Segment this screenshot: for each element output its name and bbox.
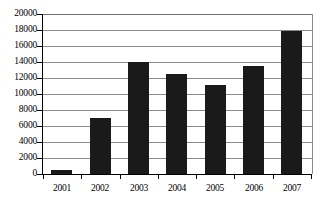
bar-2004 — [166, 74, 187, 174]
bar-2007 — [281, 31, 302, 174]
bar-2006 — [243, 66, 264, 174]
y-tick-mark — [37, 110, 42, 111]
y-tick-label: 0 — [0, 169, 37, 179]
y-tick-mark — [37, 126, 42, 127]
y-tick-mark — [37, 142, 42, 143]
x-tick-mark — [234, 175, 235, 179]
x-tick-label-2005: 2005 — [196, 183, 234, 193]
y-tick-label: 14000 — [0, 57, 37, 67]
x-tick-label-2002: 2002 — [81, 183, 119, 193]
x-tick-label-2003: 2003 — [120, 183, 158, 193]
bar-chart: 2000018000160001400012000100008000600040… — [0, 0, 328, 211]
y-tick-label: 10000 — [0, 89, 37, 99]
bar-2003 — [128, 62, 149, 174]
x-tick-label-2007: 2007 — [273, 183, 311, 193]
y-tick-mark — [37, 46, 42, 47]
y-tick-mark — [37, 30, 42, 31]
y-tick-mark — [37, 14, 42, 15]
x-tick-label-2001: 2001 — [43, 183, 81, 193]
y-tick-label: 16000 — [0, 41, 37, 51]
x-tick-label-2006: 2006 — [235, 183, 273, 193]
x-tick-mark — [81, 175, 82, 179]
x-tick-mark — [43, 175, 44, 179]
x-tick-mark — [158, 175, 159, 179]
y-tick-label: 20000 — [0, 9, 37, 19]
x-tick-mark — [311, 175, 312, 179]
y-tick-label: 12000 — [0, 73, 37, 83]
bar-2005 — [205, 85, 226, 174]
y-tick-label: 4000 — [0, 137, 37, 147]
y-tick-mark — [37, 94, 42, 95]
x-axis-line — [42, 174, 312, 175]
bar-2002 — [90, 118, 111, 174]
y-tick-mark — [37, 62, 42, 63]
x-tick-mark — [120, 175, 121, 179]
bars-layer — [43, 14, 311, 174]
y-tick-mark — [37, 78, 42, 79]
bar-2001 — [51, 170, 72, 174]
x-tick-mark — [196, 175, 197, 179]
y-tick-label: 8000 — [0, 105, 37, 115]
x-tick-mark — [273, 175, 274, 179]
y-tick-label: 6000 — [0, 121, 37, 131]
x-tick-label-2004: 2004 — [158, 183, 196, 193]
y-tick-mark — [37, 158, 42, 159]
y-tick-label: 18000 — [0, 25, 37, 35]
y-tick-label: 2000 — [0, 153, 37, 163]
